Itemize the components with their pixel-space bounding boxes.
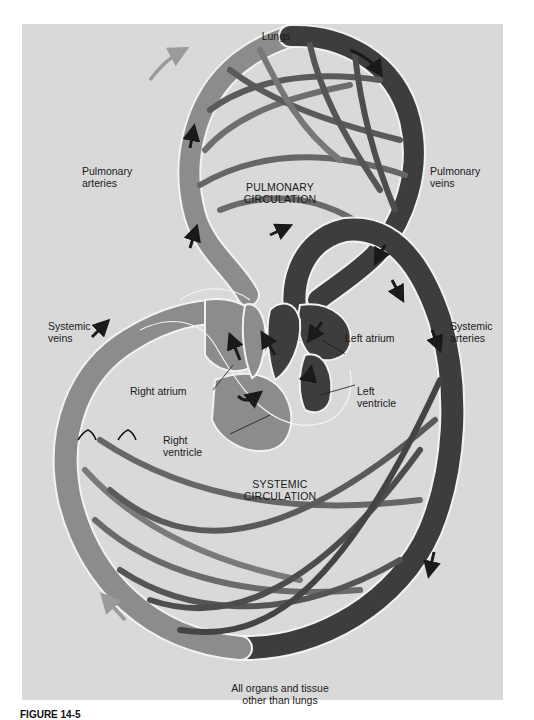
label-line: PULMONARY [225,181,335,193]
label-line: veins [48,332,91,344]
label-line: ventricle [357,397,396,409]
arrow-icon [150,52,180,80]
left-atrium-chamber [298,304,351,360]
label-line: Pulmonary [82,165,132,177]
label-line: Pulmonary [430,165,480,177]
label-line: SYSTEMIC [225,478,335,490]
left-ventricle-chamber [300,354,332,412]
label-lungs: Lungs [246,30,306,42]
right-ventricle-chamber [212,374,291,451]
label-organs-tissue: All organs and tissue other than lungs [200,682,360,706]
heart [205,299,351,451]
label-line: Systemic [450,320,493,332]
label-line: CIRCULATION [225,490,335,502]
label-systemic-veins: Systemic veins [48,320,91,344]
label-pulmonary-veins: Pulmonary veins [430,165,480,189]
vein-valves [78,430,136,440]
label-line: arteries [82,177,132,189]
label-systemic-circulation: SYSTEMIC CIRCULATION [225,478,335,502]
label-right-atrium: Right atrium [130,385,187,397]
arrow-icon [270,228,285,235]
arrow-icon [392,280,400,295]
label-systemic-arteries: Systemic arteries [450,320,493,344]
label-line: veins [430,177,480,189]
label-line: Systemic [48,320,91,332]
label-line: other than lungs [200,694,360,706]
label-pulmonary-arteries: Pulmonary arteries [82,165,132,189]
label-line: All organs and tissue [200,682,360,694]
aorta-root [268,303,301,380]
arrow-icon [92,325,104,337]
figure-caption: FIGURE 14-5 [20,709,81,720]
label-line: Right [163,434,202,446]
label-line: ventricle [163,446,202,458]
label-line: Left [357,385,396,397]
label-line: arteries [450,332,493,344]
circulation-diagram [0,0,534,720]
label-pulmonary-circulation: PULMONARY CIRCULATION [225,181,335,205]
label-right-ventricle: Right ventricle [163,434,202,458]
label-left-atrium: Left atrium [345,332,395,344]
label-line: CIRCULATION [225,193,335,205]
label-left-ventricle: Left ventricle [357,385,396,409]
